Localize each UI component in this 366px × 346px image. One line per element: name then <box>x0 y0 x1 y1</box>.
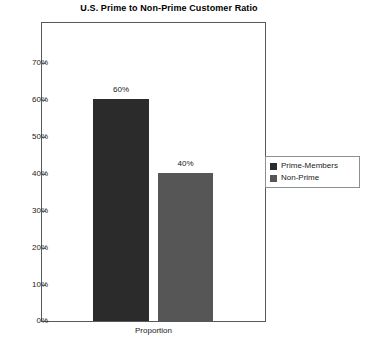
legend-item-non-prime[interactable]: Non-Prime <box>270 172 355 184</box>
legend: Prime-Members Non-Prime <box>265 156 360 188</box>
plot-area <box>41 22 266 322</box>
bar-non-prime[interactable] <box>158 173 213 321</box>
bar-chart: U.S. Prime to Non-Prime Customer Ratio 7… <box>0 0 366 346</box>
legend-swatch-non-prime <box>270 175 277 182</box>
legend-label-prime-members: Prime-Members <box>281 162 338 170</box>
bar-label-prime-members: 60% <box>93 86 149 94</box>
chart-title: U.S. Prime to Non-Prime Customer Ratio <box>0 3 338 13</box>
legend-swatch-prime-members <box>270 163 277 170</box>
legend-label-non-prime: Non-Prime <box>281 174 319 182</box>
bar-label-non-prime: 40% <box>158 160 213 168</box>
bar-prime-members[interactable] <box>93 99 149 321</box>
x-axis-label: Proportion <box>41 326 266 335</box>
legend-item-prime-members[interactable]: Prime-Members <box>270 160 355 172</box>
